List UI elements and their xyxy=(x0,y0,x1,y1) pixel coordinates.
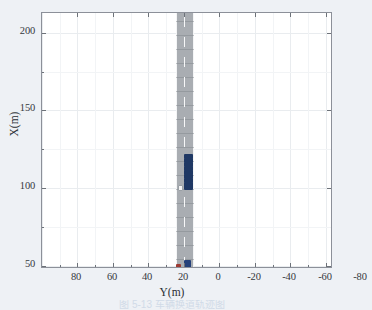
vehicle-marker xyxy=(184,185,193,190)
x-tick-label: 40 xyxy=(127,271,167,282)
road-texture xyxy=(176,91,194,92)
x-tick-minor xyxy=(95,265,96,267)
ego-vehicle-marker xyxy=(178,185,183,191)
y-tick xyxy=(42,110,46,111)
lane-divider-dash xyxy=(184,217,185,227)
vehicle-marker-red xyxy=(176,264,181,268)
x-tick xyxy=(255,263,256,267)
gridline-vertical-minor xyxy=(131,13,132,267)
gridline-vertical xyxy=(290,13,291,267)
y-tick xyxy=(42,33,46,34)
road-texture xyxy=(176,147,194,148)
x-tick-label: 80 xyxy=(56,271,96,282)
x-tick-minor xyxy=(166,265,167,267)
x-tick xyxy=(219,263,220,267)
x-tick-label: -40 xyxy=(269,271,309,282)
y-tick-minor xyxy=(42,149,44,150)
lane-divider-dash xyxy=(184,137,185,147)
y-tick-right xyxy=(327,110,331,111)
gridline-vertical xyxy=(42,13,43,267)
road-texture xyxy=(176,203,194,204)
road-edge-line-left xyxy=(176,13,177,268)
x-tick-minor xyxy=(202,265,203,267)
x-tick-minor xyxy=(237,265,238,267)
road-texture xyxy=(176,49,194,50)
y-tick-label: 50 xyxy=(1,258,35,269)
road-texture xyxy=(176,133,194,134)
x-tick xyxy=(77,263,78,267)
gridline-vertical xyxy=(326,13,327,267)
road-texture xyxy=(176,119,194,120)
gridline-vertical xyxy=(219,13,220,267)
road-edge-line-right xyxy=(193,13,194,268)
road-texture xyxy=(176,35,194,36)
gridline-vertical-minor xyxy=(202,13,203,267)
gridline-vertical-minor xyxy=(273,13,274,267)
lane-divider-dash xyxy=(184,17,185,27)
x-tick-top xyxy=(326,13,327,17)
y-tick-minor xyxy=(42,227,44,228)
x-axis-title: Y(m) xyxy=(0,286,344,298)
lane-divider-dash xyxy=(184,37,185,47)
road-texture xyxy=(176,245,194,246)
figure-caption-strip: 图 5-13 车辆换道轨迹图 xyxy=(0,300,344,310)
y-tick xyxy=(42,188,46,189)
gridline-vertical-minor xyxy=(60,13,61,267)
x-tick-minor xyxy=(60,265,61,267)
y-tick-minor xyxy=(42,72,44,73)
x-tick-top xyxy=(148,13,149,17)
gridline-vertical-minor xyxy=(95,13,96,267)
x-tick-top xyxy=(219,13,220,17)
x-tick-top xyxy=(255,13,256,17)
lane-divider-dash xyxy=(184,237,185,247)
gridline-vertical-minor xyxy=(166,13,167,267)
lane-divider-dash xyxy=(184,77,185,87)
road-texture xyxy=(176,231,194,232)
road-texture xyxy=(176,77,194,78)
x-tick-label: 0 xyxy=(198,271,238,282)
gridline-vertical-minor xyxy=(237,13,238,267)
gridline-vertical xyxy=(255,13,256,267)
gridline-vertical xyxy=(148,13,149,267)
road-corridor xyxy=(176,13,194,268)
gridline-vertical-minor xyxy=(308,13,309,267)
road-texture xyxy=(176,63,194,64)
x-tick-minor xyxy=(273,265,274,267)
x-tick-top xyxy=(77,13,78,17)
y-tick-right xyxy=(327,188,331,189)
x-tick-top xyxy=(184,13,185,17)
x-tick-top xyxy=(290,13,291,17)
y-tick-label: 200 xyxy=(1,25,35,36)
lane-divider-dash xyxy=(184,57,185,67)
x-tick-minor xyxy=(308,265,309,267)
x-tick-minor xyxy=(131,265,132,267)
y-tick xyxy=(42,266,46,267)
x-tick xyxy=(290,263,291,267)
road-texture xyxy=(176,105,194,106)
figure-caption: 图 5-13 车辆换道轨迹图 xyxy=(0,300,344,310)
y-tick-right xyxy=(327,33,331,34)
x-tick xyxy=(184,263,185,267)
x-tick xyxy=(148,263,149,267)
y-axis-title: X(m) xyxy=(8,94,20,154)
x-tick-label: -20 xyxy=(234,271,274,282)
lane-divider-dash xyxy=(184,197,185,207)
lane-divider-dash xyxy=(184,97,185,107)
x-tick-label: 60 xyxy=(92,271,132,282)
x-tick-top xyxy=(113,13,114,17)
x-tick-label: 20 xyxy=(163,271,203,282)
lane-divider-dash xyxy=(184,117,185,127)
y-tick-label: 100 xyxy=(1,180,35,191)
gridline-vertical xyxy=(113,13,114,267)
x-tick-label: -60 xyxy=(305,271,345,282)
road-texture xyxy=(176,217,194,218)
x-tick-label: -80 xyxy=(340,271,372,282)
vehicle-marker xyxy=(184,263,191,268)
x-tick xyxy=(113,263,114,267)
gridline-vertical xyxy=(77,13,78,267)
plot-axes xyxy=(41,12,332,268)
road-texture xyxy=(176,21,194,22)
y-tick-right xyxy=(327,266,331,267)
